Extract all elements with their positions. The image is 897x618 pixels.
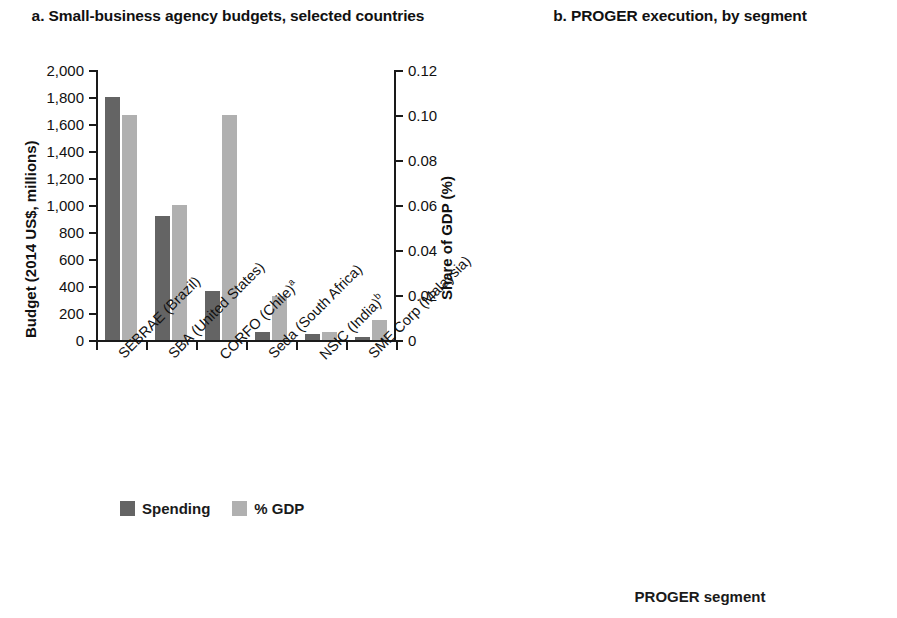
panel-a-left-tick	[89, 313, 96, 315]
panel-a-left-tick	[89, 97, 96, 99]
panel-a-right-tick	[396, 250, 403, 252]
panel-a-left-tick	[89, 259, 96, 261]
panel-a-left-tick-label: 1,600	[14, 116, 84, 133]
panel-a-legend: Spending % GDP	[120, 500, 304, 517]
panel-a-right-tick-label: 0	[408, 332, 416, 349]
panel-a-x-tick	[96, 342, 98, 350]
panel-a-right-tick	[396, 295, 403, 297]
panel-a-x-tick	[146, 342, 148, 350]
panel-a-bar-spending	[355, 337, 370, 340]
panel-a-right-tick	[396, 115, 403, 117]
panel-a: a. Small-business agency budgets, select…	[0, 0, 460, 618]
panel-a-left-tick	[89, 286, 96, 288]
panel-b-title: b. PROGER execution, by segment	[470, 6, 890, 26]
panel-a-left-tick-label: 200	[14, 305, 84, 322]
panel-a-bar-spending	[105, 97, 120, 340]
legend-swatch-spending	[120, 501, 135, 516]
panel-a-title: a. Small-business agency budgets, select…	[18, 6, 438, 26]
panel-a-left-axis-line	[96, 70, 98, 342]
panel-a-left-tick	[89, 340, 96, 342]
panel-a-right-tick	[396, 205, 403, 207]
panel-a-left-tick-label: 800	[14, 224, 84, 241]
panel-a-bar-gdp	[122, 115, 137, 340]
panel-a-bar-spending	[305, 334, 320, 340]
panel-a-left-tick	[89, 205, 96, 207]
panel-a-left-tick-label: 2,000	[14, 62, 84, 79]
panel-a-right-tick	[396, 70, 403, 72]
panel-a-right-tick-label: 0.04	[408, 242, 437, 259]
panel-a-right-tick-label: 0.08	[408, 152, 437, 169]
panel-a-left-tick-label: 1,800	[14, 89, 84, 106]
panel-a-left-tick	[89, 232, 96, 234]
panel-a-left-tick	[89, 151, 96, 153]
panel-a-left-tick-label: 0	[14, 332, 84, 349]
legend-label-gdp: % GDP	[254, 500, 304, 517]
panel-a-plot-area: 02004006008001,0001,2001,4001,6001,8002,…	[96, 70, 396, 342]
panel-a-left-tick-label: 1,000	[14, 197, 84, 214]
panel-a-right-tick-label: 0.12	[408, 62, 437, 79]
panel-a-bar-gdp	[172, 205, 187, 340]
panel-a-right-tick-label: 0.06	[408, 197, 437, 214]
panel-a-left-tick	[89, 70, 96, 72]
panel-a-left-tick-label: 1,200	[14, 170, 84, 187]
panel-a-left-tick	[89, 124, 96, 126]
legend-swatch-gdp	[232, 501, 247, 516]
legend-item-spending: Spending	[120, 500, 210, 517]
panel-a-x-tick	[396, 342, 398, 350]
panel-a-left-tick-label: 600	[14, 251, 84, 268]
panel-a-right-tick	[396, 160, 403, 162]
panel-a-x-tick	[196, 342, 198, 350]
panel-a-left-tick	[89, 178, 96, 180]
panel-b: b. PROGER execution, by segment Expendit…	[460, 0, 897, 618]
panel-a-left-tick-label: 400	[14, 278, 84, 295]
panel-a-x-tick	[296, 342, 298, 350]
legend-label-spending: Spending	[142, 500, 210, 517]
panel-a-left-tick-label: 1,400	[14, 143, 84, 160]
figure-container: a. Small-business agency budgets, select…	[0, 0, 897, 618]
legend-item-gdp: % GDP	[232, 500, 304, 517]
panel-a-right-tick-label: 0.10	[408, 107, 437, 124]
panel-b-x-axis-title: PROGER segment	[560, 588, 840, 605]
panel-a-bar-spending	[255, 332, 270, 340]
